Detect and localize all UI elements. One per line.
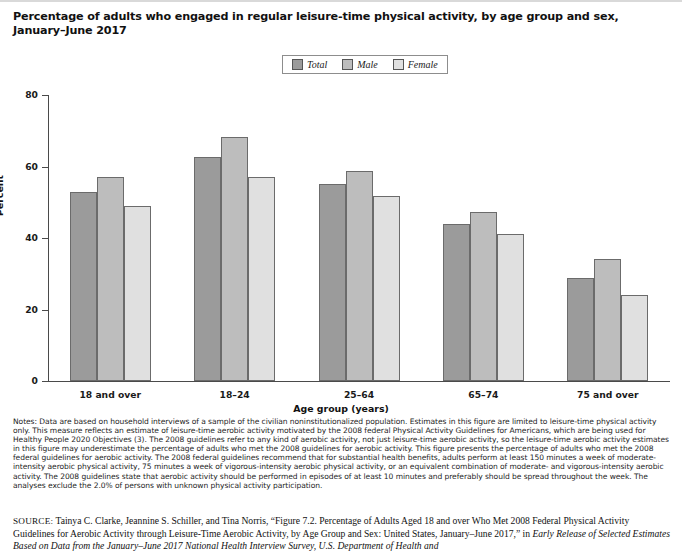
y-tick-label: 80 [0, 89, 38, 100]
bar-female-1 [248, 177, 275, 381]
x-axis-line [48, 381, 670, 382]
y-tick-label: 60 [0, 161, 38, 172]
x-axis-title: Age group (years) [0, 403, 682, 414]
bar-male-2 [346, 171, 373, 381]
bar-total-2 [319, 184, 346, 381]
y-tick-label: 0 [0, 375, 38, 386]
legend-item-total: Total [292, 59, 327, 70]
bar-total-4 [567, 278, 594, 381]
chart-legend: Total Male Female [282, 55, 448, 74]
bar-total-3 [443, 224, 470, 381]
y-tick-mark [42, 381, 48, 382]
source-kicker: SOURCE: [13, 516, 53, 526]
y-axis-title: Percent [0, 175, 5, 216]
bar-total-1 [194, 157, 221, 382]
x-category-label: 18–24 [172, 389, 296, 400]
legend-item-female: Female [393, 59, 438, 70]
legend-label-male: Male [357, 60, 378, 70]
legend-label-female: Female [408, 60, 438, 70]
y-tick-label: 20 [0, 304, 38, 315]
x-category-label: 75 and over [546, 389, 670, 400]
legend-swatch-female [393, 59, 404, 70]
bar-male-0 [97, 177, 124, 381]
x-category-label: 25–64 [297, 389, 421, 400]
bar-female-3 [497, 234, 524, 381]
legend-item-male: Male [342, 59, 378, 70]
y-tick-label: 40 [0, 232, 38, 243]
bar-male-4 [594, 259, 621, 381]
legend-swatch-male [342, 59, 353, 70]
bar-female-4 [621, 295, 648, 381]
bar-total-0 [70, 192, 97, 381]
bar-male-1 [221, 137, 248, 381]
bar-female-0 [124, 206, 151, 381]
plot-area [48, 95, 670, 381]
source-line-1: Tainya C. Clarke, Jeannine S. Schiller, … [55, 515, 595, 526]
figure-source: SOURCE: Tainya C. Clarke, Jeannine S. Sc… [13, 515, 670, 553]
bar-male-3 [470, 212, 497, 381]
legend-label-total: Total [307, 60, 327, 70]
legend-swatch-total [292, 59, 303, 70]
x-category-label: 18 and over [48, 389, 172, 400]
source-line-2-italic: Early [532, 528, 553, 539]
figure-notes: Notes: Data are based on household inter… [13, 417, 670, 490]
x-category-label: 65–74 [421, 389, 545, 400]
top-rule [0, 0, 682, 2]
page-title: Percentage of adults who engaged in regu… [13, 10, 669, 38]
bar-female-2 [373, 196, 400, 381]
